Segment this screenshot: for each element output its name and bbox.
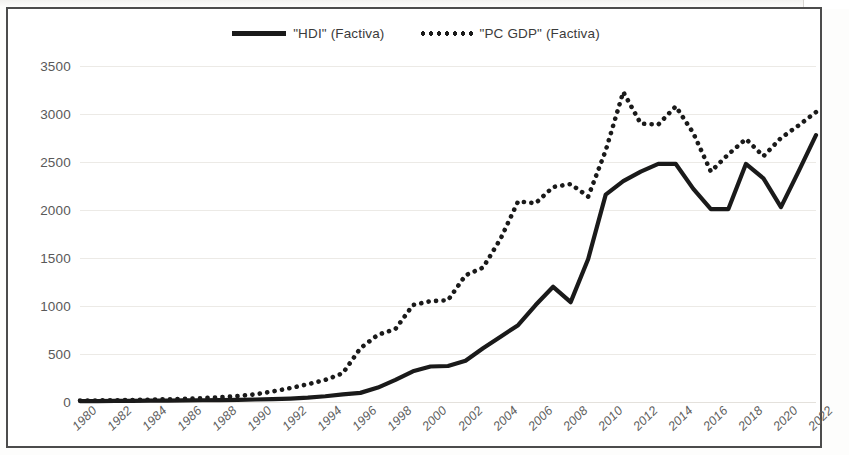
x-axis-tick-label: 2020 [770, 403, 800, 433]
y-axis-tick-label: 500 [48, 347, 71, 362]
x-axis-tick-label: 1986 [175, 403, 205, 433]
legend-dotted-line-icon [419, 31, 473, 36]
chart-legend: "HDI" (Factiva) "PC GDP" (Factiva) [8, 26, 824, 41]
y-axis-tick-label: 3500 [40, 59, 71, 74]
series-line-hdi [80, 135, 816, 401]
x-axis-tick-label: 2012 [630, 403, 660, 433]
y-axis-tick-label: 3000 [40, 107, 71, 122]
x-axis-tick-label: 2022 [805, 403, 835, 433]
x-axis-tick-label: 2006 [525, 403, 555, 433]
chart-frame: "HDI" (Factiva) "PC GDP" (Factiva) 35003… [6, 7, 822, 448]
y-axis-tick-label: 0 [63, 395, 71, 410]
y-axis-tick-label: 2000 [40, 203, 71, 218]
x-axis-tick-label: 2002 [455, 403, 485, 433]
y-axis: 3500300025002000150010005000 [8, 66, 80, 402]
x-axis-tick-label: 2000 [420, 403, 450, 433]
scan-edge-artifact [0, 0, 849, 7]
x-axis-tick-label: 2010 [595, 403, 625, 433]
x-axis-tick-label: 1992 [280, 403, 310, 433]
x-axis-tick-label: 2008 [560, 403, 590, 433]
legend-item-pc-gdp[interactable]: "PC GDP" (Factiva) [419, 26, 600, 41]
x-axis-tick-label: 1994 [315, 403, 345, 433]
x-axis-tick-label: 1998 [385, 403, 415, 433]
legend-solid-line-icon [232, 31, 286, 36]
x-axis-tick-label: 1982 [105, 403, 135, 433]
plot-area [80, 66, 816, 402]
y-axis-tick-label: 2500 [40, 155, 71, 170]
legend-item-hdi[interactable]: "HDI" (Factiva) [232, 26, 384, 41]
x-axis: 1980198219841986198819901992199419961998… [80, 407, 816, 455]
x-axis-tick-label: 2004 [490, 403, 520, 433]
y-axis-tick-label: 1000 [40, 299, 71, 314]
series-line-pc-gdp [80, 92, 816, 401]
x-axis-tick-label: 1990 [245, 403, 275, 433]
y-axis-tick-label: 1500 [40, 251, 71, 266]
x-axis-tick-label: 1988 [210, 403, 240, 433]
legend-label-pc-gdp: "PC GDP" (Factiva) [480, 26, 600, 41]
x-axis-tick-label: 2014 [665, 403, 695, 433]
x-axis-tick-label: 1984 [140, 403, 170, 433]
x-axis-tick-label: 1996 [350, 403, 380, 433]
chart-page: "HDI" (Factiva) "PC GDP" (Factiva) 35003… [0, 0, 849, 455]
x-axis-tick-label: 2018 [735, 403, 765, 433]
x-axis-tick-label: 1980 [69, 403, 99, 433]
series-layer [80, 66, 816, 402]
legend-label-hdi: "HDI" (Factiva) [293, 26, 384, 41]
x-axis-tick-label: 2016 [700, 403, 730, 433]
